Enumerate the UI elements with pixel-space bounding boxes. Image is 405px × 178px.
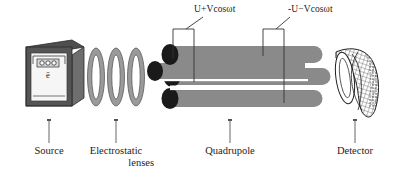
detector-horn <box>330 40 390 130</box>
part-label-electrostatic-lenses: Electrostatic lenses <box>76 145 156 169</box>
lens-1 <box>88 48 105 106</box>
part-label-source: Source <box>19 145 79 157</box>
electrostatic-lens-group <box>88 48 145 106</box>
part-label-quadrupole: Quadrupole <box>192 145 268 157</box>
part-label-lenses-line1: Electrostatic <box>90 145 142 156</box>
filament-coil <box>37 59 59 67</box>
part-label-lenses-line2: lenses <box>76 157 156 169</box>
part-label-source-line1: Source <box>34 145 63 156</box>
source-box: ē <box>26 40 84 106</box>
rod-gap-upper <box>163 79 308 81</box>
voltage-label-positive: U+Vcosωt <box>194 4 235 15</box>
quadrupole-mass-spectrometer-diagram: ē <box>0 0 405 178</box>
part-pointer-caps <box>47 119 357 121</box>
lens-3 <box>128 48 145 106</box>
source-box-side-face <box>72 47 84 106</box>
part-label-detector-line1: Detector <box>337 145 373 156</box>
lens-2 <box>108 48 125 106</box>
quadrupole-rod-bottom <box>162 88 323 109</box>
rod-gap-lower <box>170 86 318 91</box>
part-label-quadrupole-line1: Quadrupole <box>205 145 255 156</box>
electron-symbol: ē <box>46 70 50 80</box>
voltage-label-negative: -U−Vcosωt <box>288 4 333 15</box>
part-pointer-lines <box>49 120 355 143</box>
part-label-detector: Detector <box>325 145 385 157</box>
quadrupole-rod-top <box>162 44 323 65</box>
